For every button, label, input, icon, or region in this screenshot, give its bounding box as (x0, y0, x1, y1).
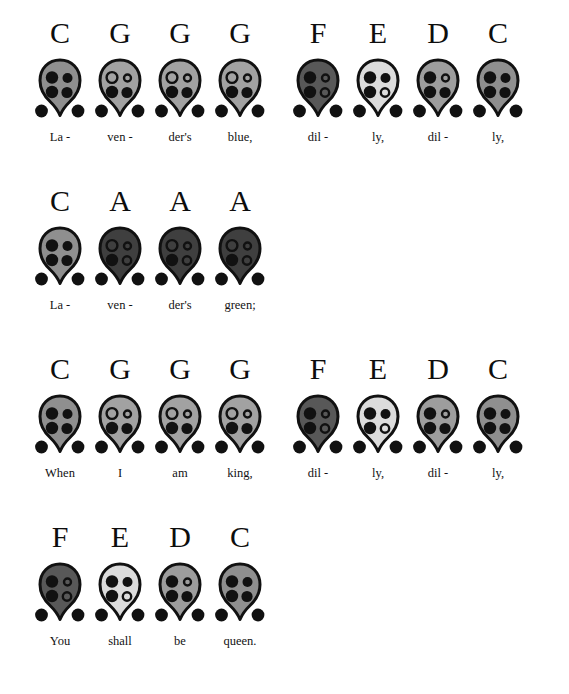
ocarina-fingering-diagram[interactable] (210, 558, 270, 626)
note-cell-e[interactable]: Ely, (348, 354, 408, 480)
thumb-hole-right-filled-icon (192, 273, 205, 286)
ocarina-fingering-diagram[interactable] (408, 54, 468, 122)
note-cell-g[interactable]: Gder's (150, 18, 210, 144)
ocarina-fingering-diagram[interactable] (150, 558, 210, 626)
hole-bottom-right-filled-icon (499, 423, 510, 434)
hole-bottom-left-filled-icon (46, 590, 58, 602)
thumb-hole-right-filled-icon (132, 441, 145, 454)
note-letter: A (169, 186, 191, 218)
ocarina-fingering-diagram[interactable] (30, 54, 90, 122)
thumb-hole-right-filled-icon (132, 609, 145, 622)
thumb-hole-left-filled-icon (95, 441, 108, 454)
ocarina-fingering-diagram[interactable] (348, 54, 408, 122)
note-cell-c[interactable]: CWhen (30, 354, 90, 480)
hole-top-right-open-icon (184, 579, 191, 586)
hole-top-left-filled-icon (46, 407, 58, 419)
hole-bottom-left-filled-icon (166, 422, 178, 434)
lyric-syllable: When (45, 466, 75, 480)
ocarina-fingering-diagram[interactable] (30, 390, 90, 458)
hole-bottom-right-filled-icon (181, 423, 192, 434)
note-cell-c[interactable]: Cqueen. (210, 522, 270, 648)
hole-top-left-filled-icon (424, 407, 436, 419)
hole-top-right-open-icon (442, 411, 449, 418)
ocarina-fingering-diagram[interactable] (288, 54, 348, 122)
ocarina-fingering-diagram[interactable] (30, 222, 90, 290)
ocarina-fingering-diagram[interactable] (150, 222, 210, 290)
note-cell-g[interactable]: Gblue, (210, 18, 270, 144)
note-letter: C (488, 18, 508, 50)
note-cell-f[interactable]: FYou (30, 522, 90, 648)
ocarina-fingering-diagram[interactable] (90, 558, 150, 626)
hole-bottom-right-open-icon (63, 592, 71, 600)
note-cell-a[interactable]: Ader's (150, 186, 210, 312)
hole-top-left-open-icon (167, 408, 178, 419)
thumb-hole-right-filled-icon (252, 105, 265, 118)
ocarina-fingering-diagram[interactable] (90, 390, 150, 458)
note-cell-a[interactable]: Aven - (90, 186, 150, 312)
hole-top-right-open-icon (442, 75, 449, 82)
hole-bottom-left-filled-icon (106, 86, 118, 98)
note-cell-g[interactable]: Gven - (90, 18, 150, 144)
ocarina-fingering-diagram[interactable] (150, 54, 210, 122)
note-cell-f[interactable]: Fdil - (288, 354, 348, 480)
ocarina-fingering-diagram[interactable] (288, 390, 348, 458)
lyric-syllable: I (118, 466, 122, 480)
hole-bottom-left-filled-icon (484, 86, 496, 98)
note-cell-a[interactable]: Agreen; (210, 186, 270, 312)
note-letter: C (230, 522, 250, 554)
note-cell-e[interactable]: Ely, (348, 18, 408, 144)
ocarina-fingering-diagram[interactable] (468, 390, 528, 458)
note-letter: C (50, 18, 70, 50)
note-cell-e[interactable]: Eshall (90, 522, 150, 648)
note-letter: F (310, 18, 327, 50)
ocarina-fingering-diagram[interactable] (90, 54, 150, 122)
note-group: CLa -Aven -Ader'sAgreen; (30, 186, 270, 312)
note-letter: E (369, 354, 387, 386)
note-letter: G (169, 18, 191, 50)
note-letter: G (109, 18, 131, 50)
note-cell-c[interactable]: CLa - (30, 186, 90, 312)
note-cell-c[interactable]: Cly, (468, 354, 528, 480)
thumb-hole-left-filled-icon (155, 105, 168, 118)
hole-top-right-open-icon (244, 243, 251, 250)
note-cell-d[interactable]: Dbe (150, 522, 210, 648)
thumb-hole-left-filled-icon (95, 609, 108, 622)
ocarina-fingering-diagram[interactable] (348, 390, 408, 458)
hole-top-left-open-icon (227, 408, 238, 419)
ocarina-fingering-diagram[interactable] (210, 222, 270, 290)
ocarina-fingering-diagram[interactable] (30, 558, 90, 626)
hole-bottom-left-filled-icon (304, 422, 316, 434)
note-cell-f[interactable]: Fdil - (288, 18, 348, 144)
hole-top-right-filled-icon (63, 409, 73, 419)
note-cell-g[interactable]: Gking, (210, 354, 270, 480)
hole-top-left-open-icon (227, 72, 238, 83)
note-cell-d[interactable]: Ddil - (408, 18, 468, 144)
hole-bottom-left-filled-icon (364, 422, 376, 434)
note-cell-d[interactable]: Ddil - (408, 354, 468, 480)
hole-bottom-right-filled-icon (241, 423, 252, 434)
note-cell-g[interactable]: Gam (150, 354, 210, 480)
note-cell-g[interactable]: GI (90, 354, 150, 480)
ocarina-fingering-diagram[interactable] (210, 54, 270, 122)
ocarina-body-a (150, 222, 210, 290)
note-group: Fdil -Ely,Ddil -Cly, (288, 18, 528, 144)
lyric-syllable: green; (224, 298, 255, 312)
note-cell-c[interactable]: Cly, (468, 18, 528, 144)
thumb-hole-right-filled-icon (450, 441, 463, 454)
ocarina-fingering-diagram[interactable] (90, 222, 150, 290)
thumb-hole-right-filled-icon (72, 609, 85, 622)
lyric-syllable: am (172, 466, 187, 480)
hole-bottom-left-filled-icon (166, 86, 178, 98)
note-cell-c[interactable]: CLa - (30, 18, 90, 144)
note-letter: C (50, 186, 70, 218)
ocarina-fingering-diagram[interactable] (150, 390, 210, 458)
hole-top-left-filled-icon (484, 71, 496, 83)
note-letter: E (111, 522, 129, 554)
thumb-hole-left-filled-icon (353, 105, 366, 118)
ocarina-fingering-diagram[interactable] (408, 390, 468, 458)
hole-top-right-open-icon (244, 75, 251, 82)
ocarina-fingering-diagram[interactable] (210, 390, 270, 458)
ocarina-fingering-diagram[interactable] (468, 54, 528, 122)
lyric-syllable: shall (108, 634, 132, 648)
thumb-hole-left-filled-icon (215, 105, 228, 118)
